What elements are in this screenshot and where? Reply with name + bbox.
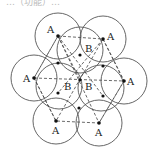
a-dot [97,121,101,125]
gap-dot [78,53,81,56]
labels: A A A A A A B B B [22,24,135,138]
gap-dot [56,91,59,94]
a-dot [56,34,60,38]
gap-dot [101,94,104,97]
gap-dot [101,64,104,67]
label-a: A [106,31,115,42]
label-a: A [126,76,135,87]
a-dot [122,79,126,83]
label-b: B [85,81,92,92]
a-dot [32,76,36,80]
dash-line [58,36,80,80]
label-a: A [22,73,31,84]
label-b: B [64,81,71,92]
label-a: A [46,24,55,35]
circle-packing-diagram: A A A A A A B B B [0,0,154,155]
gap-dot [77,106,80,109]
a-dot [101,37,105,41]
label-a: A [51,125,60,136]
label-a: A [94,127,103,138]
a-dot [54,119,58,123]
center-dot [78,78,81,81]
label-b: B [85,43,92,54]
gap-dot [56,61,59,64]
dash-line [34,78,56,121]
